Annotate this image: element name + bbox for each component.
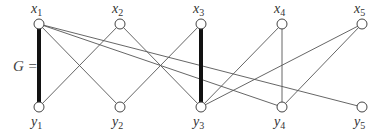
node-label-x3: x3	[193, 2, 204, 18]
node-x4	[277, 19, 287, 29]
graph-label: G =	[13, 58, 38, 75]
node-x1	[34, 19, 44, 29]
node-label-x5: x5	[354, 2, 365, 18]
node-y3	[196, 102, 206, 112]
node-x3	[196, 19, 206, 29]
edges-group	[39, 24, 362, 107]
node-label-y1: y1	[31, 115, 42, 131]
node-y1	[34, 102, 44, 112]
node-x5	[357, 19, 367, 29]
node-y2	[115, 102, 125, 112]
node-label-y2: y2	[112, 115, 123, 131]
node-label-y5: y5	[354, 115, 365, 131]
edge-x4-y3	[201, 24, 282, 107]
node-y4	[277, 102, 287, 112]
node-label-x4: x4	[274, 2, 285, 18]
edge-x5-y4	[282, 24, 362, 107]
node-label-x2: x2	[112, 2, 123, 18]
node-label-y4: y4	[274, 115, 285, 131]
node-label-y3: y3	[193, 115, 204, 131]
edge-x5-y3	[201, 24, 362, 107]
node-x2	[115, 19, 125, 29]
node-y5	[357, 102, 367, 112]
bipartite-graph	[0, 0, 381, 135]
node-label-x1: x1	[31, 2, 42, 18]
